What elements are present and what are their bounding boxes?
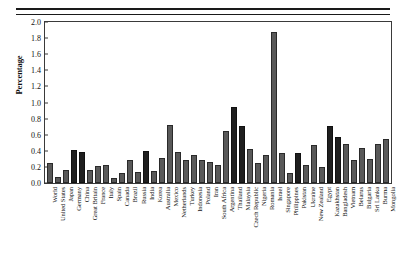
x-label-slot: Burma — [375, 185, 383, 268]
x-label-slot: Germany — [69, 185, 77, 268]
bar-slot — [334, 22, 342, 183]
top-rule-divider — [16, 8, 390, 15]
y-tick-label: 0.6 — [31, 130, 45, 139]
x-label-slot: Belarus — [351, 185, 359, 268]
x-label-slot: Czech Republic — [246, 185, 254, 268]
x-tick-label: Mongolia — [390, 187, 397, 212]
bar — [215, 165, 220, 183]
x-label-slot: Egypt — [319, 185, 327, 268]
bar-slot — [302, 22, 310, 183]
x-label-slot: Vietnam — [343, 185, 351, 268]
bar — [95, 166, 100, 183]
x-label-slot: Malaysia — [238, 185, 246, 268]
bar-slot — [198, 22, 206, 183]
x-label-slot: Spain — [109, 185, 117, 268]
bar-slot — [94, 22, 102, 183]
x-axis-labels: WorldUnited StatesJapanGermanyChinaGreat… — [44, 185, 392, 268]
x-label-slot: Australia — [158, 185, 166, 268]
bar — [71, 150, 76, 183]
y-tick-label: 1.8 — [31, 34, 45, 43]
bar-slot — [382, 22, 390, 183]
x-label-slot: China — [77, 185, 85, 268]
bar — [135, 172, 140, 183]
bar — [279, 153, 284, 183]
y-tick-label: 1.2 — [31, 82, 45, 91]
x-label-slot: Singapore — [278, 185, 286, 268]
bar-slot — [190, 22, 198, 183]
x-label-slot: Great Britain — [85, 185, 93, 268]
bar — [287, 173, 292, 183]
bar-slot — [358, 22, 366, 183]
x-label-slot: Bulgaria — [359, 185, 367, 268]
bar — [359, 148, 364, 183]
bar-slot — [230, 22, 238, 183]
bar-slot — [350, 22, 358, 183]
y-axis-title: Percentage — [14, 32, 24, 118]
bar-slot — [142, 22, 150, 183]
x-label-slot: Japan — [61, 185, 69, 268]
bar — [223, 131, 228, 183]
bar — [151, 171, 156, 183]
bar — [375, 144, 380, 183]
bar — [55, 177, 60, 183]
x-label-slot: United States — [53, 185, 61, 268]
bar-slot — [342, 22, 350, 183]
y-tick-label: 0.2 — [31, 162, 45, 171]
x-label-slot: Mexico — [166, 185, 174, 268]
x-label-slot: Brazil — [125, 185, 133, 268]
bar — [127, 160, 132, 183]
bar-slot — [126, 22, 134, 183]
bar-series — [45, 22, 391, 183]
bar-slot — [70, 22, 78, 183]
bar-slot — [158, 22, 166, 183]
bar-slot — [62, 22, 70, 183]
bar — [63, 170, 68, 183]
bar-slot — [54, 22, 62, 183]
bar-slot — [238, 22, 246, 183]
bar-slot — [366, 22, 374, 183]
bar — [183, 160, 188, 183]
x-label-slot: Bangladesh — [335, 185, 343, 268]
x-label-slot: Korea — [150, 185, 158, 268]
bar-slot — [318, 22, 326, 183]
x-label-slot: Canada — [117, 185, 125, 268]
bar — [239, 126, 244, 183]
y-tick-label: 0.4 — [31, 146, 45, 155]
bar-slot — [262, 22, 270, 183]
x-label-slot: Philippines — [286, 185, 294, 268]
bar-slot — [174, 22, 182, 183]
x-label-slot: Romania — [262, 185, 270, 268]
x-label-slot: World — [45, 185, 53, 268]
x-label-slot: Mongolia — [383, 185, 391, 268]
x-label-slot: Pakistan — [294, 185, 302, 268]
x-label-slot: Indonesia — [190, 185, 198, 268]
y-tick-label: 1.6 — [31, 50, 45, 59]
x-label-slot: Poland — [198, 185, 206, 268]
bar-slot — [270, 22, 278, 183]
x-label-slot: Turkey — [182, 185, 190, 268]
x-label-slot: Nigeria — [254, 185, 262, 268]
bar — [87, 170, 92, 183]
bar — [319, 167, 324, 183]
bar-slot — [374, 22, 382, 183]
x-label-slot: Sri Lanka — [367, 185, 375, 268]
x-label-slot: New Zealand — [311, 185, 319, 268]
bar — [175, 152, 180, 183]
bar-slot — [206, 22, 214, 183]
bar — [311, 145, 316, 183]
bar-slot — [110, 22, 118, 183]
x-label-slot: Thailand — [230, 185, 238, 268]
y-tick-label: 1.4 — [31, 66, 45, 75]
x-label-slot: Russia — [134, 185, 142, 268]
bar — [367, 159, 372, 183]
bar-chart: Percentage 2.01.81.61.41.21.00.80.60.40.… — [0, 18, 406, 268]
bar — [263, 155, 268, 183]
bar — [255, 163, 260, 183]
bar-slot — [310, 22, 318, 183]
bar — [119, 173, 124, 183]
bar — [343, 144, 348, 183]
bar — [327, 126, 332, 183]
plot-area: 2.01.81.61.41.21.00.80.60.40.20.0 — [44, 21, 392, 184]
bar-slot — [214, 22, 222, 183]
bar — [111, 178, 116, 183]
